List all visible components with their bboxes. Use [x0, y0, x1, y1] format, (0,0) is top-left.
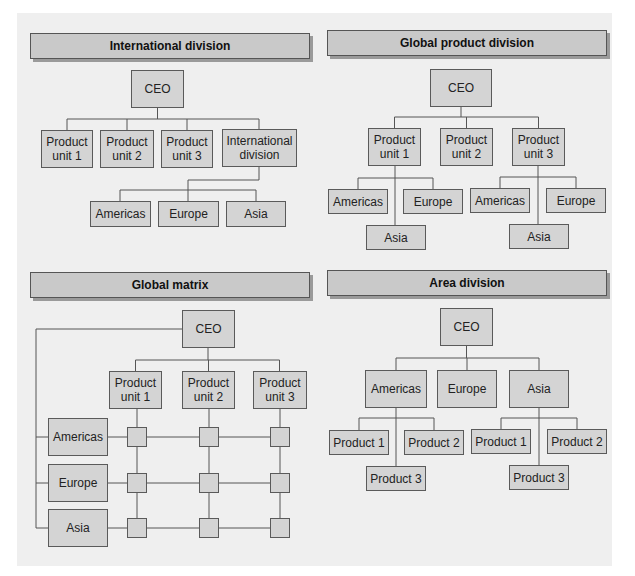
intl-product-unit-1-node: Product unit 1: [41, 130, 93, 168]
international-division-title: International division: [30, 33, 310, 59]
gpd-unit3-asia-node: Asia: [509, 224, 569, 249]
area-asia-product-2-node: Product 2: [547, 429, 607, 454]
intl-international-division-node: International division: [222, 129, 297, 167]
area-division-title: Area division: [327, 270, 607, 296]
intl-product-unit-2-node: Product unit 2: [100, 130, 154, 168]
gpd-unit3-americas-node: Americas: [470, 188, 530, 213]
intl-asia-node: Asia: [226, 201, 286, 227]
area-americas-product-2-node: Product 2: [404, 430, 464, 455]
gpd-unit1-americas-node: Americas: [328, 189, 388, 214]
matrix-cell-europe-unit3: [270, 473, 290, 493]
area-europe-node: Europe: [437, 370, 497, 408]
gpd-product-unit-3-node: Product unit 3: [512, 128, 565, 166]
matrix-cell-europe-unit2: [199, 473, 219, 493]
area-americas-product-3-node: Product 3: [366, 466, 426, 491]
gpd-ceo-node: CEO: [430, 69, 492, 107]
area-americas-product-1-node: Product 1: [329, 430, 389, 455]
area-asia-product-1-node: Product 1: [471, 429, 531, 454]
matrix-cell-asia-unit1: [127, 518, 147, 538]
matrix-ceo-node: CEO: [182, 310, 235, 348]
area-asia-product-3-node: Product 3: [509, 465, 569, 490]
matrix-americas-node: Americas: [48, 418, 108, 456]
matrix-cell-americas-unit3: [270, 427, 290, 447]
matrix-product-unit-3-node: Product unit 3: [253, 371, 307, 409]
matrix-cell-asia-unit2: [199, 518, 219, 538]
matrix-product-unit-1-node: Product unit 1: [109, 371, 162, 409]
matrix-cell-europe-unit1: [127, 473, 147, 493]
area-ceo-node: CEO: [440, 308, 493, 346]
area-asia-node: Asia: [509, 370, 569, 408]
gpd-product-unit-2-node: Product unit 2: [440, 128, 493, 166]
matrix-product-unit-2-node: Product unit 2: [182, 371, 235, 409]
gpd-unit1-europe-node: Europe: [403, 189, 463, 214]
matrix-europe-node: Europe: [48, 464, 108, 502]
intl-ceo-node: CEO: [131, 70, 184, 108]
intl-europe-node: Europe: [158, 201, 219, 227]
gpd-unit1-asia-node: Asia: [366, 225, 426, 250]
gpd-unit3-europe-node: Europe: [546, 188, 606, 213]
org-structures-figure: International division CEO Product unit …: [0, 0, 635, 576]
matrix-cell-asia-unit3: [270, 518, 290, 538]
matrix-asia-node: Asia: [48, 509, 108, 547]
intl-americas-node: Americas: [90, 201, 151, 227]
global-product-division-title: Global product division: [327, 30, 607, 56]
global-matrix-title: Global matrix: [30, 272, 310, 298]
matrix-cell-americas-unit1: [127, 427, 147, 447]
gpd-product-unit-1-node: Product unit 1: [368, 128, 421, 166]
intl-product-unit-3-node: Product unit 3: [161, 130, 213, 168]
area-americas-node: Americas: [365, 370, 427, 408]
matrix-cell-americas-unit2: [199, 427, 219, 447]
